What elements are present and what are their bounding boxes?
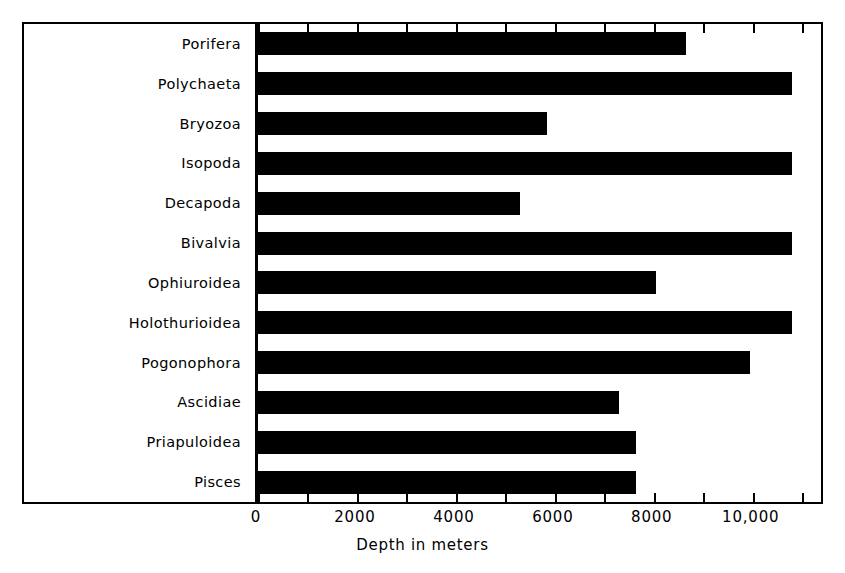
x-tick-bottom — [654, 493, 656, 502]
x-tick-label: 10,000 — [722, 508, 779, 526]
x-tick-bottom — [307, 493, 309, 502]
x-tick-label: 2000 — [334, 508, 375, 526]
x-tick-top — [307, 24, 309, 33]
x-tick-top — [357, 24, 359, 33]
bar-porifera — [258, 32, 686, 55]
category-label: Pogonophora — [141, 348, 241, 378]
x-tick-top — [505, 24, 507, 33]
bar-bivalvia — [258, 232, 792, 255]
chart-frame: PoriferaPolychaetaBryozoaIsopodaDecapoda… — [22, 22, 823, 504]
x-tick-bottom — [505, 493, 507, 502]
x-axis-title: Depth in meters — [0, 536, 845, 554]
category-label: Porifera — [182, 29, 241, 59]
bar-chart-figure: PoriferaPolychaetaBryozoaIsopodaDecapoda… — [0, 0, 845, 573]
category-label: Priapuloidea — [147, 427, 242, 457]
x-tick-bottom — [753, 493, 755, 502]
x-tick-bottom — [456, 493, 458, 502]
category-label: Bivalvia — [181, 228, 241, 258]
plot-area — [258, 24, 821, 502]
bar-priapuloidea — [258, 431, 636, 454]
category-label: Polychaeta — [158, 69, 241, 99]
x-tick-bottom — [802, 493, 804, 502]
bar-holothurioidea — [258, 311, 792, 334]
x-tick-top — [555, 24, 557, 33]
x-tick-top — [456, 24, 458, 33]
x-tick-label: 0 — [251, 508, 261, 526]
x-tick-label: 8000 — [631, 508, 672, 526]
x-tick-top — [258, 24, 260, 33]
bar-decapoda — [258, 192, 520, 215]
bar-ophiuroidea — [258, 271, 656, 294]
x-tick-bottom — [604, 493, 606, 502]
category-label: Isopoda — [181, 148, 241, 178]
x-tick-label: 6000 — [532, 508, 573, 526]
category-label: Bryozoa — [179, 109, 241, 139]
bar-isopoda — [258, 152, 792, 175]
x-tick-top — [703, 24, 705, 33]
category-label: Ascidiae — [177, 387, 241, 417]
bar-ascidiae — [258, 391, 619, 414]
bar-pogonophora — [258, 351, 750, 374]
category-label: Holothurioidea — [129, 308, 241, 338]
bar-polychaeta — [258, 72, 792, 95]
x-tick-top — [654, 24, 656, 33]
bar-bryozoa — [258, 112, 547, 135]
x-tick-top — [753, 24, 755, 33]
x-tick-bottom — [357, 493, 359, 502]
x-tick-top — [406, 24, 408, 33]
bar-pisces — [258, 471, 636, 494]
x-tick-bottom — [406, 493, 408, 502]
x-tick-bottom — [258, 493, 260, 502]
category-label: Ophiuroidea — [148, 268, 241, 298]
x-tick-bottom — [703, 493, 705, 502]
category-label: Pisces — [194, 467, 241, 497]
x-tick-label: 4000 — [433, 508, 474, 526]
x-tick-top — [604, 24, 606, 33]
category-label: Decapoda — [165, 188, 241, 218]
x-tick-top — [802, 24, 804, 33]
x-tick-bottom — [555, 493, 557, 502]
category-label-column: PoriferaPolychaetaBryozoaIsopodaDecapoda… — [24, 24, 258, 502]
